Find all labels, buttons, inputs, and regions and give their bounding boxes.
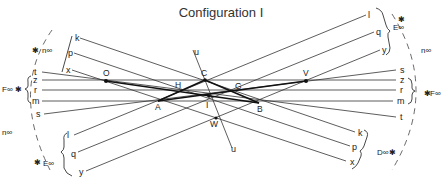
- point-O: [104, 79, 108, 83]
- label-point-A: A: [155, 102, 161, 112]
- right-label-s: s: [400, 65, 405, 75]
- label-point-C: C: [201, 68, 207, 78]
- label-u-bottom: u: [231, 144, 236, 154]
- label-point-H: H: [175, 80, 181, 90]
- left-label-z: z: [33, 75, 38, 85]
- right-label-k: k: [358, 128, 363, 138]
- left-label-q: q: [71, 149, 76, 159]
- right-infinity-arc: [392, 14, 416, 170]
- label-E-top-right: E∞: [393, 23, 404, 32]
- label-point-O: O: [103, 68, 110, 78]
- label-E-bottom-left: E∞: [43, 159, 54, 168]
- left-label-s: s: [36, 109, 41, 119]
- star-E-bottom-left: ✱: [34, 158, 41, 167]
- star-D-bottom-right: ✱: [389, 148, 396, 157]
- label-point-B: B: [257, 104, 263, 114]
- star-F-left: ✱: [15, 85, 22, 94]
- label-point-W: W: [210, 119, 218, 129]
- label-u-top: u: [194, 47, 199, 57]
- brace-right-zrm: [408, 78, 415, 104]
- label-n-left: n∞: [2, 128, 12, 137]
- left-label-x: x: [66, 65, 71, 75]
- diagram-title: Configuration I: [179, 5, 264, 20]
- line-x: [72, 70, 346, 161]
- right-label-x: x: [350, 157, 355, 167]
- label-n-top-left: n∞: [42, 46, 52, 55]
- label-F-left: F∞: [2, 85, 13, 94]
- point-V: [304, 79, 308, 83]
- line-p: [74, 53, 350, 146]
- label-point-V: V: [303, 68, 309, 78]
- brace-left-tzrm: [25, 76, 31, 103]
- line-t: [42, 72, 396, 117]
- left-label-r: r: [34, 85, 37, 95]
- left-label-p: p: [68, 48, 73, 58]
- left-label-y: y: [79, 167, 84, 177]
- point-I: [207, 94, 211, 98]
- left-label-k: k: [75, 33, 80, 43]
- label-point-I: I: [206, 100, 208, 110]
- star-n-top-left: ✱: [32, 46, 39, 55]
- right-label-m: m: [397, 96, 405, 106]
- left-label-m: m: [32, 96, 40, 106]
- right-label-z: z: [400, 75, 405, 85]
- right-label-y: y: [382, 45, 387, 55]
- point-C: [203, 78, 207, 82]
- label-n-right: n∞: [421, 46, 431, 55]
- configuration-diagram: Configuration I O H C G V A I B W u u k …: [0, 0, 442, 181]
- right-label-r: r: [400, 85, 403, 95]
- label-point-G: G: [235, 81, 242, 91]
- right-label-p: p: [352, 142, 357, 152]
- right-label-l: l: [368, 10, 370, 20]
- right-label-t: t: [400, 112, 403, 122]
- label-D-bottom-right: D∞: [377, 148, 389, 157]
- right-label-q: q: [376, 27, 381, 37]
- left-label-l: l: [67, 130, 69, 140]
- label-F-right: F∞: [430, 89, 441, 98]
